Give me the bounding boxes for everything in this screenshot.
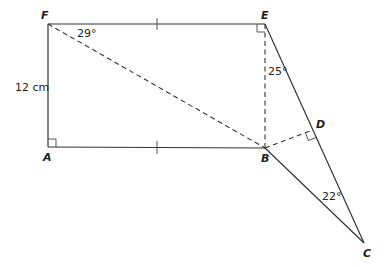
side-length-label: 12 cm — [15, 81, 49, 94]
point-label-C: C — [363, 247, 371, 260]
segment-BD-dashed — [265, 130, 313, 148]
segment-FB-dashed — [48, 24, 265, 148]
right-angle-A-icon — [48, 139, 56, 147]
angle-label-22: 22° — [322, 190, 342, 203]
point-label-F: F — [41, 9, 49, 22]
angle-label-25: 25° — [268, 65, 288, 78]
point-label-A: A — [42, 151, 52, 164]
point-label-E: E — [261, 9, 269, 22]
right-angle-E-icon — [257, 24, 265, 32]
segment-BC — [265, 148, 364, 243]
point-label-B: B — [261, 152, 269, 165]
segment-EC — [265, 24, 364, 243]
angle-label-29: 29° — [77, 27, 97, 40]
point-label-D: D — [316, 118, 325, 131]
geometry-diagram: F E A B D C 12 cm 29° 25° 22° — [0, 0, 389, 267]
